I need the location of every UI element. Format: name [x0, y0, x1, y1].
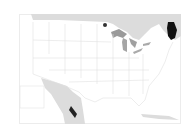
lake-of-the-woods — [103, 23, 107, 27]
map-canvas — [19, 14, 181, 124]
us-state-map — [19, 14, 181, 124]
map-frame — [20, 15, 181, 124]
